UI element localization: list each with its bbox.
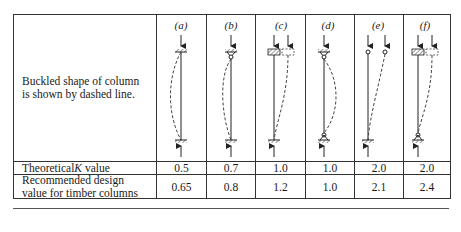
theoretical-d: 1.0 [306,162,354,174]
diagram-row-label: Buckled shape of column is shown by dash… [14,15,162,161]
column-diagrams: (a) (b) (c) [157,15,451,161]
theoretical-c: 1.0 [256,162,305,174]
recommended-b: 0.8 [207,175,255,199]
diagram-e: (e) [362,19,387,157]
recommended-row-label: Recommended design value for timber colu… [14,175,162,199]
svg-text:(e): (e) [372,19,385,32]
svg-text:(f): (f) [420,19,431,32]
diagram-a: (a) [171,19,188,157]
effective-length-table: Buckled shape of column is shown by dash… [13,14,451,199]
svg-text:(d): (d) [322,19,335,32]
recommended-f: 2.4 [404,175,450,199]
theoretical-row-label: Theoretical K value [14,162,162,174]
label-line: Recommended design [22,174,124,187]
recommended-e: 2.1 [355,175,403,199]
label-line: value for timber columns [22,187,138,200]
theoretical-f: 2.0 [404,162,450,174]
diagram-d: (d) [318,19,336,157]
recommended-d: 1.0 [306,175,354,199]
diagram-b: (b) [223,19,238,157]
label-text: value [82,162,110,175]
svg-text:(b): (b) [225,19,238,32]
k-symbol: K [74,162,82,175]
diagram-c: (c) [268,19,294,157]
diagram-caption: Buckled shape of column is shown by dash… [22,75,142,101]
theoretical-a: 0.5 [157,162,206,174]
label-text: Theoretical [22,162,74,175]
recommended-c: 1.2 [256,175,305,199]
diagram-f: (f) [412,19,438,157]
svg-text:(c): (c) [275,19,288,32]
svg-text:(a): (a) [175,19,188,32]
theoretical-b: 0.7 [207,162,255,174]
table-footer-rule [13,208,449,209]
theoretical-e: 2.0 [355,162,403,174]
recommended-a: 0.65 [157,175,206,199]
